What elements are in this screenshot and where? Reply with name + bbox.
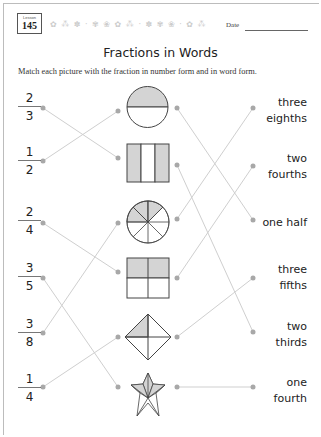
fraction-bar [18,106,41,107]
dot-left-2[interactable] [41,159,46,164]
rectangle-thirds-picture [127,144,169,182]
numerator: 2 [26,91,34,105]
connector-2-4-to-square [43,223,118,272]
dot-picture-right-1[interactable] [175,106,180,111]
dot-right-4[interactable] [251,276,256,281]
word-line-1: one [274,375,307,391]
dot-left-4[interactable] [41,276,46,281]
denominator: 2 [26,163,34,177]
dot-left-5[interactable] [41,331,46,336]
word-line-2: fourths [268,167,307,183]
diamond-quarters-picture [125,314,171,360]
dot-picture-right-3[interactable] [175,217,180,222]
dot-picture-left-5[interactable] [116,335,121,340]
dot-picture-right-5[interactable] [175,335,180,340]
fraction-bar [18,276,41,277]
dot-picture-right-6[interactable] [175,385,180,390]
denominator: 5 [26,279,34,293]
connector-1-4-to-diamond [43,337,118,387]
dot-right-6[interactable] [251,385,256,390]
dot-picture-left-3[interactable] [116,221,121,226]
word-three-eighths: three eighths [266,95,307,127]
word-line-1: two [268,151,307,167]
dot-picture-left-1[interactable] [116,109,121,114]
dot-picture-left-6[interactable] [116,385,121,390]
connector-2-3-to-rectangle [43,108,118,158]
square-quarters-picture [127,258,169,298]
star-fifths-picture [131,373,165,416]
fraction-bar [18,220,41,221]
connector-3-8-to-pie [43,223,118,333]
dot-picture-left-2[interactable] [116,156,121,161]
word-one-fourth: one fourth [274,375,307,407]
denominator: 4 [26,223,34,237]
word-three-fifths: three fifths [278,262,307,294]
word-two-fourths: two fourths [268,151,307,183]
word-line-2: fourth [274,391,307,407]
denominator: 8 [26,335,34,349]
circle-half-picture [127,86,168,127]
word-line-1: one half [262,215,307,231]
word-line-1: two [276,319,307,335]
word-line-2: fifths [278,278,307,294]
numerator: 2 [26,205,34,219]
word-two-thirds: two thirds [276,319,307,351]
dot-right-2[interactable] [251,164,256,169]
fraction-2-4: 2 4 [18,205,41,237]
fraction-3-8: 3 8 [18,317,41,349]
fraction-bar [18,332,41,333]
word-line-2: thirds [276,335,307,351]
fraction-bar [18,160,41,161]
dot-left-1[interactable] [41,106,46,111]
connector-1-2-to-circle [43,111,118,161]
fraction-bar [18,387,41,388]
word-one-half: one half [262,215,307,231]
numerator: 3 [26,261,34,275]
connector-square-to-two-fourths [177,166,253,278]
dot-left-3[interactable] [41,221,46,226]
pie-eighths-picture [127,201,169,243]
dot-picture-right-2[interactable] [175,163,180,168]
dot-left-6[interactable] [41,385,46,390]
connector-3-5-to-star [43,278,118,387]
word-line-2: eighths [266,111,307,127]
fraction-1-4: 1 4 [18,372,41,404]
fraction-2-3: 2 3 [18,91,41,123]
dot-right-1[interactable] [251,106,256,111]
word-line-1: three [278,262,307,278]
numerator: 3 [26,317,34,331]
denominator: 3 [26,109,34,123]
word-line-1: three [266,95,307,111]
dot-picture-left-4[interactable] [116,270,121,275]
dot-right-3[interactable] [251,218,256,223]
numerator: 1 [26,372,34,386]
denominator: 4 [26,390,34,404]
dot-right-5[interactable] [251,330,256,335]
fraction-1-2: 1 2 [18,145,41,177]
fraction-3-5: 3 5 [18,261,41,293]
dot-picture-right-4[interactable] [175,276,180,281]
numerator: 1 [26,145,34,159]
